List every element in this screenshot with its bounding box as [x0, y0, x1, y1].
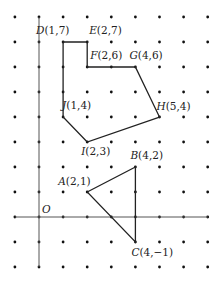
grid-dot: [158, 91, 161, 94]
grid-dot: [134, 116, 137, 119]
grid-dot: [206, 241, 209, 244]
grid-dot: [182, 66, 185, 69]
grid-dot: [110, 141, 113, 144]
grid-dot: [206, 141, 209, 144]
grid-dot: [182, 241, 185, 244]
grid-dot: [62, 141, 65, 144]
point-label-j: J(1,4): [60, 99, 91, 111]
grid-dot: [182, 16, 185, 19]
point-label-h: H(5,4): [156, 100, 191, 112]
point-label-f: F(2,6): [89, 49, 122, 61]
grid-dot: [158, 41, 161, 44]
grid-dot: [14, 191, 17, 194]
point-label-a: A(2,1): [57, 175, 90, 187]
grid-dot: [134, 141, 137, 144]
coordinate-grid-figure: A(2,1)B(4,2)C(4,−1)D(1,7)E(2,7)F(2,6)G(4…: [0, 0, 221, 281]
grid-dot: [182, 266, 185, 269]
grid-dot: [86, 16, 89, 19]
point-label-b: B(4,2): [129, 149, 163, 161]
grid-dot: [134, 266, 137, 269]
grid-dot: [62, 266, 65, 269]
point-label-e: E(2,7): [88, 24, 122, 36]
grid-dot: [134, 41, 137, 44]
grid-dot: [110, 91, 113, 94]
grid-dot: [158, 16, 161, 19]
grid-dot: [182, 91, 185, 94]
grid-dot: [206, 91, 209, 94]
grid-dot: [62, 191, 65, 194]
grid-dot: [110, 16, 113, 19]
grid-dot: [62, 16, 65, 19]
grid-dot: [110, 41, 113, 44]
grid-dot: [182, 41, 185, 44]
grid-dot: [158, 266, 161, 269]
grid-dot: [182, 191, 185, 194]
grid-dot: [14, 66, 17, 69]
grid-dot: [110, 266, 113, 269]
grid-dot: [206, 191, 209, 194]
grid-dot: [206, 66, 209, 69]
grid-dot: [206, 116, 209, 119]
grid-dot: [134, 91, 137, 94]
grid-dot: [206, 266, 209, 269]
grid-dot: [206, 16, 209, 19]
grid-dot: [158, 191, 161, 194]
grid-dot: [62, 166, 65, 169]
grid-dot: [110, 166, 113, 169]
grid-dot: [14, 241, 17, 244]
grid-dot: [206, 166, 209, 169]
grid-dot: [110, 191, 113, 194]
grid-dot: [14, 166, 17, 169]
grid-dot: [206, 41, 209, 44]
origin-label: O: [42, 203, 51, 215]
grid-dot: [86, 266, 89, 269]
grid-dot: [182, 116, 185, 119]
grid-dot: [14, 41, 17, 44]
grid-dot: [158, 241, 161, 244]
grid-dot: [62, 241, 65, 244]
grid-dot: [14, 266, 17, 269]
grid-dot: [134, 16, 137, 19]
point-labels: A(2,1)B(4,2)C(4,−1)D(1,7)E(2,7)F(2,6)G(4…: [35, 24, 190, 258]
grid-dot: [86, 166, 89, 169]
grid-dot: [86, 116, 89, 119]
grid-dot: [14, 16, 17, 19]
grid-dot: [14, 116, 17, 119]
grid-dot: [110, 116, 113, 119]
grid-dot: [158, 166, 161, 169]
grid-dot: [14, 91, 17, 94]
grid-dot: [86, 241, 89, 244]
point-label-d: D(1,7): [35, 24, 69, 36]
grid-dot: [86, 91, 89, 94]
point-label-c: C(4,−1): [131, 246, 173, 258]
point-label-g: G(4,6): [129, 49, 162, 61]
grid-dot: [182, 141, 185, 144]
grid-dot: [14, 141, 17, 144]
grid-dot: [182, 166, 185, 169]
grid-dot: [110, 241, 113, 244]
grid-dot: [158, 66, 161, 69]
triangle-abc: [87, 167, 135, 242]
point-label-i: I(2,3): [80, 145, 110, 157]
grid-dot: [158, 141, 161, 144]
